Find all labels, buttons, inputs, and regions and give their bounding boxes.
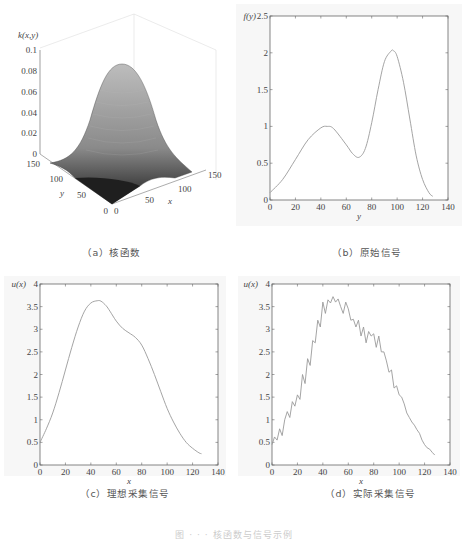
y-tick-label: 0: [264, 195, 269, 205]
y-tick-label: 2.5: [27, 347, 39, 357]
x-tick-label: 60: [344, 467, 354, 477]
y-tick-label: 0: [34, 460, 39, 470]
x-tick-label: 40: [318, 467, 328, 477]
y-tick-label: 2.5: [259, 347, 271, 357]
z-tick-0.1: 0.1: [26, 45, 37, 55]
axes-box: [40, 284, 218, 465]
x-tick-label: 20: [61, 467, 71, 477]
y-tick-label: 1.5: [259, 392, 271, 402]
z-tick-0: 0: [33, 149, 38, 159]
y-tick-label: 1.5: [27, 392, 39, 402]
y-tick-label: 2: [266, 370, 271, 380]
x-tick-label: 120: [186, 467, 200, 477]
x-tick-label: 80: [137, 467, 147, 477]
z-tick-0.08: 0.08: [21, 66, 37, 76]
panel-d-actual-signal: 02040608010012014000.511.522.533.54xu(x): [234, 255, 468, 485]
x-tick-100: 100: [178, 184, 192, 194]
panel-a-kernel-surface: 0.1 0.08 0.06 0.04 0.02 0 k(x,y) 150 100…: [0, 0, 234, 230]
line-chart-b: 02040608010012014000.511.522.5yf(y): [234, 0, 468, 230]
y-tick-label: 2: [264, 48, 269, 58]
y-axis-label: f(y): [244, 11, 257, 21]
x-axis-label: x: [167, 196, 172, 206]
x-tick-label: 100: [160, 467, 174, 477]
y-tick-label: 2: [34, 370, 39, 380]
x-tick-label: 120: [418, 467, 432, 477]
y-tick-label: 1.5: [257, 85, 269, 95]
x-tick-label: 40: [316, 202, 326, 212]
x-tick-label: 0: [268, 202, 273, 212]
y-tick-50: 50: [77, 190, 87, 200]
y-tick-label: 4: [34, 279, 39, 289]
x-tick-label: 80: [367, 202, 377, 212]
y-axis-label: u(x): [244, 279, 259, 289]
y-tick-label: 3.5: [27, 302, 39, 312]
x-tick-label: 140: [441, 202, 455, 212]
y-tick-label: 3: [266, 324, 271, 334]
caption-d: （d）实际采集信号: [325, 486, 416, 500]
y-tick-label: 1: [266, 415, 271, 425]
caption-c: （c）理想采集信号: [80, 486, 170, 500]
y-axis-label: u(x): [12, 279, 27, 289]
line-chart-d: 02040608010012014000.511.522.533.54xu(x): [234, 255, 468, 485]
x-tick-label: 60: [342, 202, 352, 212]
x-tick-label: 100: [392, 467, 406, 477]
x-tick-label: 80: [369, 467, 379, 477]
x-tick-label: 120: [416, 202, 430, 212]
line-chart-c: 02040608010012014000.511.522.533.54xu(x): [0, 255, 234, 485]
y-tick-100: 100: [50, 174, 64, 184]
y-axis-label: y: [59, 188, 64, 198]
y-tick-label: 1: [34, 415, 39, 425]
y-tick-label: 0.5: [257, 158, 269, 168]
axes-box: [272, 284, 450, 465]
x-tick-label: 0: [38, 467, 43, 477]
z-tick-0.04: 0.04: [21, 108, 37, 118]
y-tick-label: 1: [264, 121, 269, 131]
x-tick-label: 60: [112, 467, 122, 477]
surface-plot: 0.1 0.08 0.06 0.04 0.02 0 k(x,y) 150 100…: [0, 0, 234, 230]
panel-c-ideal-signal: 02040608010012014000.511.522.533.54xu(x): [0, 255, 234, 485]
z-tick-0.02: 0.02: [21, 128, 37, 138]
x-tick-label: 40: [86, 467, 96, 477]
z-axis-label: k(x,y): [18, 30, 38, 40]
x-tick-label: 20: [293, 467, 303, 477]
x-axis-label: x: [358, 476, 363, 485]
z-tick-0.06: 0.06: [21, 87, 37, 97]
figure-caption: 图 · · · 核函数与信号示例: [0, 528, 468, 541]
y-tick-0: 0: [104, 206, 109, 216]
x-tick-150: 150: [208, 170, 222, 180]
y-tick-label: 3: [34, 324, 39, 334]
x-tick-label: 0: [270, 467, 275, 477]
x-axis-label: y: [356, 211, 361, 221]
y-tick-150: 150: [27, 159, 41, 169]
y-tick-label: 3.5: [259, 302, 271, 312]
x-tick-label: 100: [390, 202, 404, 212]
x-tick-50: 50: [145, 195, 155, 205]
axes-box: [270, 16, 448, 200]
y-tick-label: 0: [266, 460, 271, 470]
x-tick-label: 140: [211, 467, 225, 477]
x-tick-label: 20: [291, 202, 301, 212]
y-tick-label: 0.5: [259, 437, 271, 447]
panel-b-original-signal: 02040608010012014000.511.522.5yf(y): [234, 0, 468, 230]
y-tick-label: 2.5: [257, 11, 269, 21]
x-tick-0: 0: [114, 206, 119, 216]
y-tick-label: 4: [266, 279, 271, 289]
y-tick-label: 0.5: [27, 437, 39, 447]
x-tick-label: 140: [443, 467, 457, 477]
x-axis-label: x: [126, 476, 131, 485]
